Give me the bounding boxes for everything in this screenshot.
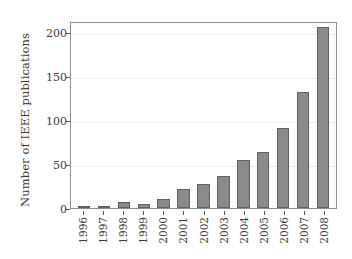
x-tick-mark (83, 211, 84, 215)
x-tick-slot: 2007 (294, 211, 314, 259)
bar-slot (273, 23, 293, 208)
x-tick-label: 1997 (97, 217, 109, 244)
x-tick-label: 2001 (177, 217, 189, 244)
bar (78, 206, 90, 208)
x-tick-slot: 1996 (73, 211, 93, 259)
x-tick-mark (143, 211, 144, 215)
bar-slot (233, 23, 253, 208)
x-tick-slot: 2000 (153, 211, 173, 259)
x-tick-slot: 2004 (234, 211, 254, 259)
bar-slot (74, 23, 94, 208)
bar-series (71, 23, 336, 208)
x-tick-label: 2000 (157, 217, 169, 244)
bar (217, 176, 229, 208)
x-tick-label: 2003 (218, 217, 230, 244)
x-tick-slot: 2001 (173, 211, 193, 259)
x-axis-ticks: 1996199719981999200020012002200320042005… (70, 211, 337, 259)
bar (297, 92, 309, 208)
x-tick-mark (183, 211, 184, 215)
x-tick-slot: 2008 (314, 211, 334, 259)
bar-slot (174, 23, 194, 208)
x-tick-mark (204, 211, 205, 215)
x-tick-slot: 1998 (113, 211, 133, 259)
bar (98, 206, 110, 208)
x-tick-label: 2005 (258, 217, 270, 244)
x-tick-label: 2006 (278, 217, 290, 244)
x-tick-slot: 2005 (254, 211, 274, 259)
y-tick-mark (66, 209, 70, 210)
y-tick-label: 50 (53, 158, 67, 171)
y-tick-label: 100 (46, 114, 67, 127)
x-tick-slot: 2006 (274, 211, 294, 259)
plot-area (70, 22, 337, 209)
bar-slot (94, 23, 114, 208)
x-tick-mark (324, 211, 325, 215)
x-tick-mark (103, 211, 104, 215)
bar (237, 160, 249, 208)
bar-slot (213, 23, 233, 208)
bar (257, 152, 269, 208)
y-tick-label: 200 (46, 26, 67, 39)
x-tick-slot: 2002 (193, 211, 213, 259)
x-tick-mark (304, 211, 305, 215)
x-tick-slot: 1997 (93, 211, 113, 259)
bar-slot (114, 23, 134, 208)
bar (118, 202, 130, 208)
bar (138, 204, 150, 208)
bar (277, 128, 289, 208)
bar-slot (253, 23, 273, 208)
bar (197, 184, 209, 208)
bar-slot (313, 23, 333, 208)
x-tick-mark (284, 211, 285, 215)
bar (317, 27, 329, 208)
x-tick-mark (224, 211, 225, 215)
bar-chart-figure: Number of IEEE publications 050100150200… (0, 0, 352, 259)
bar-slot (134, 23, 154, 208)
bar (157, 199, 169, 208)
x-tick-label: 1996 (77, 217, 89, 244)
bar (177, 189, 189, 208)
x-tick-slot: 2003 (214, 211, 234, 259)
x-tick-label: 2004 (238, 217, 250, 244)
x-tick-label: 1998 (117, 217, 129, 244)
x-tick-slot: 1999 (133, 211, 153, 259)
x-tick-label: 1999 (137, 217, 149, 244)
bar-slot (194, 23, 214, 208)
x-tick-label: 2007 (298, 217, 310, 244)
x-tick-label: 2008 (318, 217, 330, 244)
x-tick-label: 2002 (198, 217, 210, 244)
x-tick-mark (244, 211, 245, 215)
y-tick-label: 150 (46, 70, 67, 83)
x-tick-mark (123, 211, 124, 215)
bar-slot (293, 23, 313, 208)
x-tick-mark (163, 211, 164, 215)
bar-slot (154, 23, 174, 208)
x-tick-mark (264, 211, 265, 215)
